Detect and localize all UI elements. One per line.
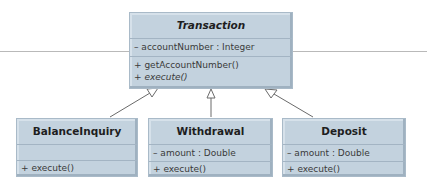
operation-execute: + execute() — [153, 162, 272, 177]
operation-execute: + execute() — [287, 162, 405, 177]
arrow-deposit-to-transaction — [265, 89, 313, 117]
attributes-section — [17, 144, 137, 160]
operations-section: + execute() — [149, 161, 272, 177]
attributes-section: – amount : Double — [283, 144, 405, 161]
operations-section: + execute() — [283, 161, 405, 177]
class-name-withdrawal: Withdrawal — [149, 119, 272, 144]
class-balanceinquiry: BalanceInquiry + execute() — [16, 118, 138, 177]
class-transaction: Transaction – accountNumber : Integer + … — [129, 12, 293, 89]
operation-getaccountnumber: + getAccountNumber() — [134, 59, 292, 71]
class-deposit: Deposit – amount : Double + execute() — [282, 118, 406, 177]
class-withdrawal: Withdrawal – amount : Double + execute() — [148, 118, 273, 177]
attribute-amount: – amount : Double — [287, 145, 405, 161]
class-name-deposit: Deposit — [283, 119, 405, 144]
arrow-balanceinquiry-to-transaction — [110, 88, 158, 117]
operations-section: + execute() — [17, 160, 137, 176]
class-name-transaction: Transaction — [130, 13, 292, 38]
operation-execute: + execute() — [21, 161, 137, 176]
operation-execute-abstract: + execute() — [134, 71, 292, 83]
attribute-accountnumber: – accountNumber : Integer — [134, 39, 292, 56]
class-name-balanceinquiry: BalanceInquiry — [17, 119, 137, 144]
attributes-section: – amount : Double — [149, 144, 272, 161]
arrow-withdrawal-to-transaction — [207, 89, 215, 117]
attribute-amount: – amount : Double — [153, 145, 272, 161]
attributes-section: – accountNumber : Integer — [130, 38, 292, 56]
operations-section: + getAccountNumber() + execute() — [130, 56, 292, 83]
